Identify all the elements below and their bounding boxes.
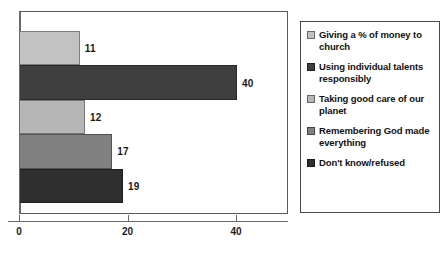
legend-swatch-icon-3 [307, 127, 315, 135]
bar-row: 17 [20, 134, 288, 168]
bar-row: 11 [20, 31, 288, 65]
x-tick-label-20: 20 [122, 226, 133, 237]
bar-series-3 [20, 134, 112, 168]
bar-value-label-0: 11 [85, 43, 96, 54]
legend-label-1: Using individual talents responsibly [319, 61, 433, 84]
bar-value-label-2: 12 [90, 111, 102, 122]
legend-swatch-icon-2 [307, 95, 315, 103]
bar-value-label-1: 40 [242, 77, 254, 88]
legend-item: Giving a % of money to church [307, 29, 433, 52]
x-tick-0 [19, 215, 20, 222]
legend-item: Using individual talents responsibly [307, 61, 433, 84]
bar-value-label-3: 17 [117, 146, 129, 157]
legend-label-0: Giving a % of money to church [319, 29, 433, 52]
x-tick-20 [128, 215, 129, 222]
bar-row: 12 [20, 100, 288, 134]
legend-item: Remembering God made everything [307, 125, 433, 148]
bar-value-label-4: 19 [128, 180, 140, 191]
legend-item: Don't know/refused [307, 157, 433, 169]
legend: Giving a % of money to church Using indi… [300, 21, 440, 213]
x-axis-line [8, 221, 288, 222]
x-tick-label-40: 40 [230, 226, 241, 237]
legend-swatch-icon-1 [307, 63, 315, 71]
legend-swatch-icon-0 [307, 31, 315, 39]
legend-label-4: Don't know/refused [319, 157, 405, 169]
legend-swatch-icon-4 [307, 159, 315, 167]
legend-item: Taking good care of our planet [307, 93, 433, 116]
x-tick-label-0: 0 [16, 226, 22, 237]
bars-layer: 11 40 12 17 19 [20, 31, 288, 203]
x-tick-40 [236, 215, 237, 222]
legend-label-2: Taking good care of our planet [319, 93, 433, 116]
bar-row: 40 [20, 65, 288, 99]
bar-row: 19 [20, 169, 288, 203]
bar-series-2 [20, 100, 85, 134]
bar-series-1 [20, 65, 237, 99]
bar-series-4 [20, 169, 123, 203]
bar-chart: 11 40 12 17 19 02040 Giving a % of money… [0, 0, 447, 263]
bar-series-0 [20, 31, 80, 65]
legend-label-3: Remembering God made everything [319, 125, 433, 148]
